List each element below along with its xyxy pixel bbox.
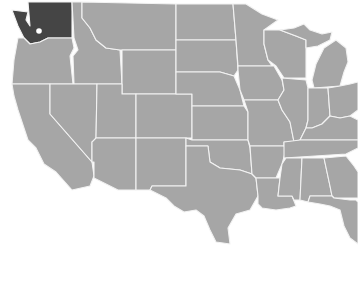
state-mississippi[interactable] [278, 158, 302, 200]
state-michigan[interactable] [312, 40, 348, 88]
state-tennessee[interactable] [284, 140, 358, 158]
state-arizona[interactable] [92, 138, 136, 190]
state-south-dakota[interactable] [176, 40, 238, 76]
state-ohio[interactable] [328, 82, 358, 118]
state-kansas[interactable] [192, 106, 248, 140]
state-iowa[interactable] [238, 66, 284, 100]
state-oregon[interactable] [12, 38, 74, 84]
state-colorado[interactable] [136, 94, 192, 138]
state-north-dakota[interactable] [176, 4, 236, 40]
state-new-mexico[interactable] [136, 138, 186, 190]
location-marker-icon [36, 28, 42, 34]
us-map: United States map [0, 0, 358, 281]
state-wyoming[interactable] [122, 50, 176, 94]
state-florida[interactable] [308, 196, 358, 244]
